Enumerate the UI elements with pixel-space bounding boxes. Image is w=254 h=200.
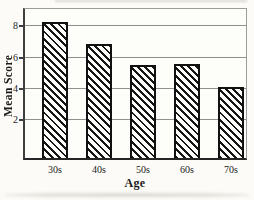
y-tick-label-8: 8 xyxy=(0,20,18,32)
bar-70s xyxy=(218,87,244,158)
y-tick-8 xyxy=(19,25,23,27)
x-tick-label-50s: 50s xyxy=(125,164,161,175)
bar-50s xyxy=(130,65,156,158)
bar-chart-figure: Mean Score 246830s40s50s60s70s Age xyxy=(0,0,254,200)
scan-artifact-top xyxy=(55,0,247,2)
bar-60s xyxy=(174,64,200,158)
x-tick-label-30s: 30s xyxy=(37,164,73,175)
y-tick-2 xyxy=(19,119,23,121)
bar-40s xyxy=(86,44,112,158)
x-tick-label-40s: 40s xyxy=(81,164,117,175)
y-tick-label-2: 2 xyxy=(0,114,18,126)
y-tick-6 xyxy=(19,57,23,59)
x-tick-label-60s: 60s xyxy=(169,164,205,175)
scan-artifact-bottom xyxy=(4,193,250,197)
y-tick-4 xyxy=(19,88,23,90)
y-tick-label-6: 6 xyxy=(0,52,18,64)
x-axis-title: Age xyxy=(23,176,247,191)
x-tick-label-70s: 70s xyxy=(213,164,249,175)
bar-30s xyxy=(42,22,68,158)
plot-area xyxy=(23,8,247,160)
y-tick-label-4: 4 xyxy=(0,83,18,95)
